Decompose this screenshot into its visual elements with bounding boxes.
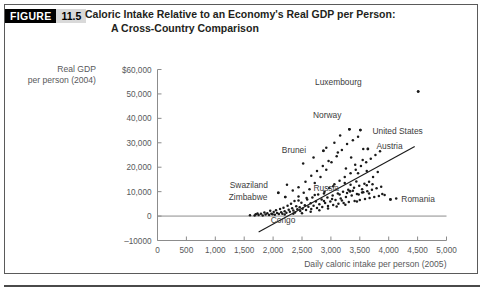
data-point [371, 183, 374, 186]
data-point [275, 209, 278, 212]
data-point [298, 206, 301, 209]
data-point-highlighted [277, 192, 280, 195]
y-tick-label: 50,000 [126, 90, 151, 99]
data-point [378, 195, 381, 198]
data-point [304, 181, 307, 184]
data-point [361, 188, 364, 191]
chart-canvas: –10000010,00020,00030,00040,00050,000$60… [0, 0, 484, 295]
x-tick-label: 4,500 [407, 246, 428, 255]
point-label: Russia [313, 183, 339, 193]
point-label: Luxembourg [315, 77, 362, 87]
data-point [342, 190, 345, 193]
data-point [344, 176, 347, 179]
data-point [286, 205, 289, 208]
data-point [362, 148, 365, 151]
x-tick-label: 0 [155, 246, 160, 255]
data-point [341, 149, 344, 152]
data-point [353, 200, 356, 203]
data-point [350, 194, 353, 197]
data-point [310, 208, 313, 211]
data-point [357, 135, 360, 138]
data-point [321, 206, 324, 209]
data-point [316, 170, 319, 173]
y-tick-label: 0 [147, 212, 152, 221]
data-point [320, 198, 323, 201]
data-point-highlighted [367, 148, 370, 151]
data-point [257, 214, 260, 217]
data-point [365, 170, 368, 173]
data-point [335, 155, 338, 158]
data-point [395, 197, 398, 200]
data-point [290, 203, 293, 206]
data-point [292, 209, 295, 212]
point-label: United States [372, 126, 422, 136]
data-point [332, 204, 335, 207]
data-point [380, 186, 383, 189]
data-point [373, 196, 376, 199]
data-point [302, 162, 305, 165]
data-point [358, 185, 361, 188]
data-point [352, 189, 355, 192]
data-point [329, 200, 332, 203]
data-point [345, 167, 348, 170]
data-point [313, 194, 316, 197]
x-axis-title: Daily caloric intake per person (2005) [304, 259, 446, 269]
point-label: Swaziland [230, 180, 269, 190]
data-point [370, 157, 373, 160]
data-point-highlighted [389, 198, 392, 201]
data-point [375, 187, 378, 190]
data-point [374, 154, 377, 157]
data-point [286, 184, 289, 187]
data-point [327, 160, 330, 163]
scatter-plot: –10000010,00020,00030,00040,00050,000$60… [0, 0, 484, 295]
data-point [327, 205, 330, 208]
x-tick-label: 3,000 [321, 246, 342, 255]
data-point-highlighted [254, 213, 257, 216]
data-point [338, 193, 341, 196]
data-point [331, 194, 334, 197]
data-point [350, 156, 353, 159]
point-label: Norway [313, 110, 342, 120]
data-point [361, 159, 364, 162]
data-point [292, 189, 295, 192]
data-point [325, 146, 328, 149]
y-tick-label: 20,000 [126, 163, 151, 172]
data-point [344, 182, 347, 185]
y-tick-label: 30,000 [126, 139, 151, 148]
data-point [272, 211, 275, 214]
data-point-highlighted [359, 129, 362, 132]
data-point [302, 192, 305, 195]
figure-root: FIGURE 11.5 Caloric Intake Relative to a… [0, 0, 484, 295]
data-point [362, 191, 365, 194]
data-point [376, 171, 379, 174]
data-point [342, 202, 345, 205]
data-point [366, 190, 369, 193]
y-tick-label: –10000 [124, 237, 152, 246]
data-point [293, 200, 296, 203]
data-point [291, 207, 294, 210]
data-point [359, 199, 362, 202]
data-point [348, 201, 351, 204]
data-point [357, 172, 360, 175]
data-point [297, 199, 300, 202]
data-point [354, 164, 357, 167]
point-label: Austria [377, 141, 403, 151]
data-point [356, 200, 359, 203]
data-point [305, 197, 308, 200]
y-tick-label: 10,000 [126, 188, 151, 197]
data-point [312, 156, 315, 159]
data-point [381, 193, 384, 196]
y-axis-title-line2: per person (2004) [28, 75, 96, 85]
data-point [300, 201, 303, 204]
data-point [352, 139, 355, 142]
data-point [322, 165, 325, 168]
data-point [315, 200, 318, 203]
data-point [285, 211, 288, 214]
data-point [368, 192, 371, 195]
data-point [330, 161, 333, 164]
data-point [307, 206, 310, 209]
data-point [249, 214, 252, 217]
data-point [338, 179, 341, 182]
data-point [326, 196, 329, 199]
point-label: Brunei [282, 145, 306, 155]
